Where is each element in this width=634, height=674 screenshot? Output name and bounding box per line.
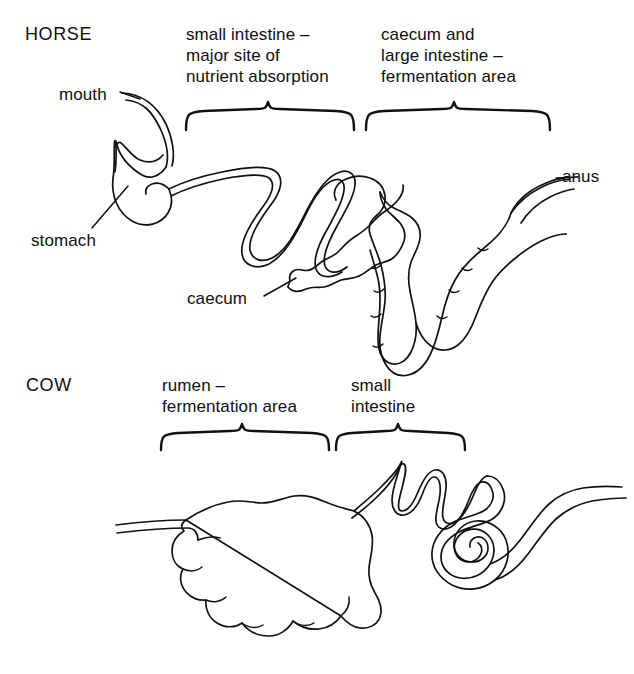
horse-brace-small-intestine bbox=[186, 102, 354, 130]
cow-oesophagus bbox=[116, 520, 198, 540]
horse-brace-label-small-intestine: small intestine – major site of nutrient… bbox=[186, 24, 329, 87]
cow-brace-label-rumen: rumen – fermentation area bbox=[162, 375, 297, 417]
cow-rumen bbox=[172, 496, 381, 636]
horse-caecum bbox=[288, 185, 405, 291]
horse-oesophagus bbox=[122, 93, 173, 167]
horse-brace-label-caecum-large-intestine: caecum and large intestine – fermentatio… bbox=[381, 24, 516, 87]
cow-animal-label: COW bbox=[26, 375, 72, 396]
cow-spiral-colon bbox=[432, 476, 626, 589]
caecum-leader-line bbox=[264, 278, 296, 296]
horse-label-mouth: mouth bbox=[59, 84, 107, 105]
horse-large-intestine bbox=[334, 176, 566, 375]
stomach-leader-line bbox=[92, 186, 128, 228]
cow-brace-small-intestine bbox=[336, 424, 465, 450]
digestive-tract-diagram: HORSE small intestine – major site of nu… bbox=[0, 0, 634, 674]
horse-label-anus: anus bbox=[562, 166, 599, 187]
horse-label-caecum: caecum bbox=[187, 288, 247, 309]
cow-small-intestine bbox=[352, 461, 487, 529]
cow-brace-rumen bbox=[161, 424, 329, 450]
horse-animal-label: HORSE bbox=[25, 24, 92, 45]
horse-label-stomach: stomach bbox=[31, 230, 96, 251]
horse-stomach bbox=[113, 141, 172, 225]
cow-brace-label-small-intestine: small intestine bbox=[351, 375, 415, 417]
horse-brace-caecum-large-intestine bbox=[366, 102, 550, 130]
horse-small-intestine bbox=[169, 167, 355, 276]
